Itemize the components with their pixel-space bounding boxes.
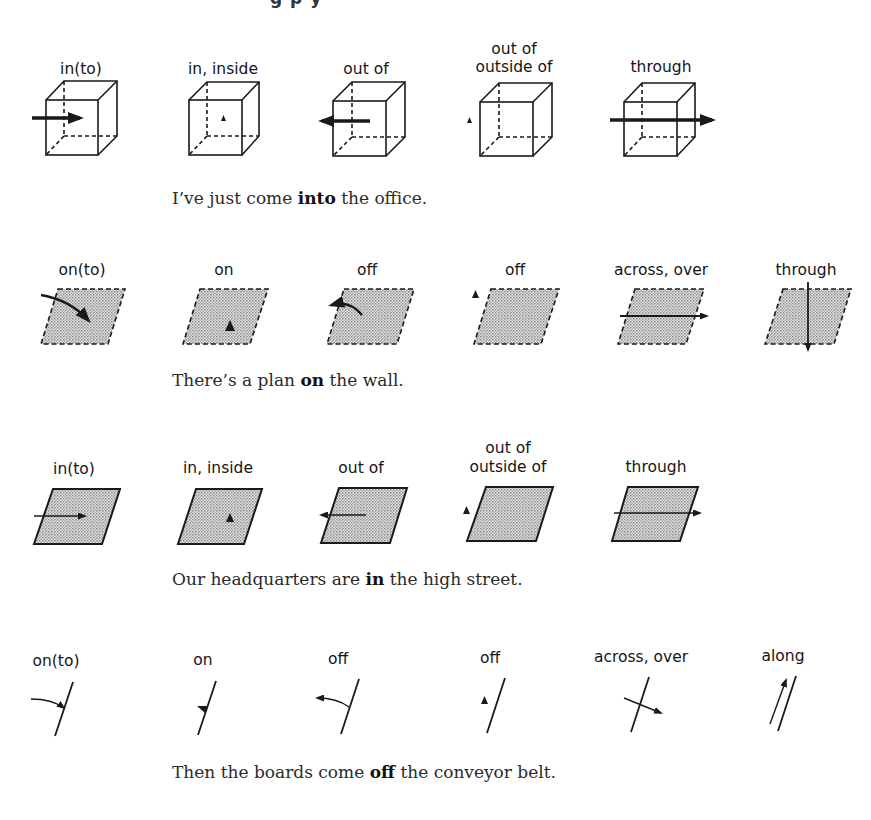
cube-outside-of [467,83,552,156]
sentence-text: Our headquarters are [172,569,365,589]
example-sentence-volume: I’ve just come into the office. [172,188,427,208]
point-marker-icon [481,696,488,704]
sentence-text: There’s a plan [172,370,300,390]
label-out-of-line1: out of [491,41,536,58]
arrow-onto-icon [31,699,64,708]
example-sentence-surface: There’s a plan on the wall. [172,370,404,390]
label-on: on [193,652,212,669]
arrow-off-icon [317,698,349,707]
sentence-text: Then the boards come [172,762,370,782]
sentence-preposition: in [365,569,384,589]
area-inside [178,489,262,544]
label-on: on [214,262,233,279]
label-through: through [631,59,692,76]
label-in-inside: in, inside [183,460,253,477]
line-across [624,677,661,732]
label-off-point: off [505,262,525,279]
sentence-text: I’ve just come [172,188,298,208]
line-along [770,676,796,731]
label-in-inside: in, inside [188,61,258,78]
point-marker-icon [463,506,470,514]
line-off [317,679,359,734]
label-across-over: across, over [594,649,688,666]
label-through: through [776,262,837,279]
arrow-across-icon [624,698,661,713]
sentence-text: the office. [336,188,427,208]
surface-through [765,282,851,350]
surface-off [327,289,414,344]
point-marker-icon [467,117,472,123]
cube-into [32,81,117,155]
line-on [197,681,216,735]
label-off: off [357,262,377,279]
point-marker-icon [221,115,226,121]
line-off-point [481,678,505,733]
point-marker-icon [472,290,479,298]
label-off: off [328,651,348,668]
area-through [612,487,700,541]
line-onto [31,682,73,736]
example-sentence-area: Our headquarters are in the high street. [172,569,523,589]
surface-onto [41,289,125,344]
label-onto: on(to) [33,653,80,670]
surface-off-point [472,289,559,344]
label-off-point: off [480,650,500,667]
surface-on [183,289,268,344]
sentence-preposition: into [298,188,336,208]
label-through: through [626,459,687,476]
example-sentence-line: Then the boards come off the conveyor be… [172,762,556,782]
cube-through [610,83,712,156]
label-outside-of-line2: outside of [475,59,552,76]
area-into [34,489,120,544]
area-outside-of [463,487,553,541]
sentence-text: the wall. [324,370,404,390]
label-into: in(to) [60,61,102,78]
sentence-preposition: off [370,762,395,782]
diagrams-canvas [0,0,871,820]
label-out-of: out of [338,460,383,477]
label-out-of-line1: out of [485,440,530,457]
sentence-text: the conveyor belt. [395,762,556,782]
label-onto: on(to) [59,262,106,279]
cube-out-of [322,82,405,156]
cube-inside [189,82,259,155]
label-into: in(to) [53,461,95,478]
arrow-along-icon [770,680,786,724]
sentence-text: the high street. [384,569,522,589]
label-along: along [762,648,805,665]
sentence-preposition: on [300,370,324,390]
surface-across [618,289,707,344]
label-outside-of-line2: outside of [469,459,546,476]
label-across-over: across, over [614,262,708,279]
label-out-of: out of [343,61,388,78]
area-out-of [321,488,407,543]
cropped-heading-fragment: g p y [270,0,322,8]
